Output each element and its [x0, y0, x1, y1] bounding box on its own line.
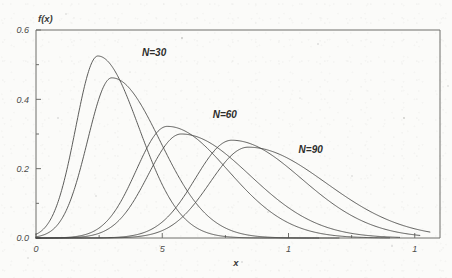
y-tick-label: 0.2	[16, 164, 29, 174]
chart-figure: 0511 0.00.20.40.6 N=30N=60N=90 f(x) x	[0, 0, 452, 278]
y-tick-label: 0.0	[16, 233, 29, 243]
scan-speck	[181, 37, 183, 39]
scan-speck	[391, 245, 393, 247]
curve-label: N=30	[142, 47, 167, 58]
scan-speck	[241, 261, 243, 263]
scan-speck	[65, 13, 66, 14]
scan-speck	[213, 151, 214, 152]
scan-speck	[317, 43, 319, 45]
scan-speck	[95, 195, 96, 196]
y-axis-title: f(x)	[38, 13, 53, 24]
x-tick-label: 1	[412, 244, 417, 254]
density-plot-svg: 0511 0.00.20.40.6 N=30N=60N=90 f(x) x	[0, 0, 452, 278]
scan-speck	[447, 85, 448, 86]
scan-speck	[129, 71, 130, 72]
y-tick-label: 0.4	[16, 95, 29, 105]
x-tick-label: 0	[33, 244, 38, 254]
scan-speck	[159, 245, 160, 246]
scan-speck	[27, 257, 28, 258]
scan-speck	[57, 117, 59, 119]
scan-speck	[403, 117, 405, 119]
x-tick-label: 1	[286, 244, 291, 254]
scan-speck	[351, 175, 352, 176]
curve-label: N=60	[213, 109, 238, 120]
curve-label: N=90	[299, 144, 324, 155]
y-tick-label: 0.6	[16, 25, 29, 35]
x-axis-title: x	[232, 257, 239, 268]
scan-speck	[299, 97, 300, 98]
scan-speck	[267, 211, 268, 212]
